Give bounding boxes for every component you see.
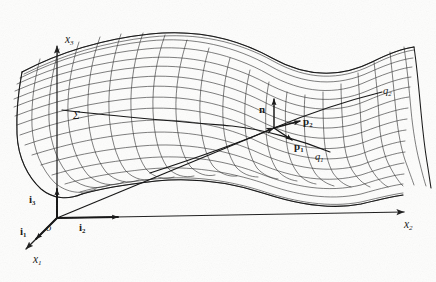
basis-label-i2: i2 bbox=[79, 222, 85, 235]
basis-label-i3: i3 bbox=[29, 194, 35, 207]
figure-canvas: x3 x2 x1 i3 i2 i1 o Σ n p2 p1 q1 q2 bbox=[0, 0, 436, 282]
origin-label: o bbox=[46, 223, 51, 234]
curve-label-q2: q2 bbox=[383, 86, 392, 97]
vector-label-p2: p2 bbox=[303, 116, 313, 129]
basis-i2-arrow bbox=[57, 217, 118, 218]
vector-label-p1: p1 bbox=[294, 141, 304, 154]
basis-label-i1: i1 bbox=[20, 226, 26, 239]
axis-label-x3: x3 bbox=[65, 34, 74, 47]
axis-label-x1: x1 bbox=[33, 254, 42, 267]
surface-label-sigma: Σ bbox=[73, 110, 80, 122]
vector-label-n: n bbox=[259, 104, 265, 117]
axis-label-x2: x2 bbox=[404, 219, 413, 232]
curve-label-q1: q1 bbox=[315, 152, 324, 163]
